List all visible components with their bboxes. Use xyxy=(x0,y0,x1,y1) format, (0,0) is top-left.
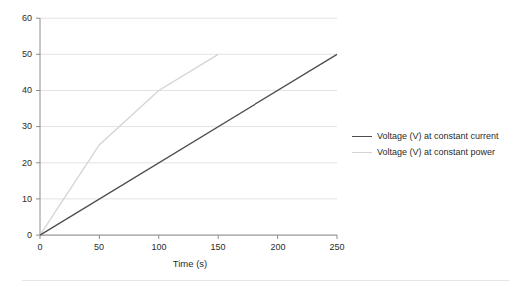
chart-legend: Voltage (V) at constant current Voltage … xyxy=(352,129,528,161)
y-tick-label-60: 60 xyxy=(8,13,32,23)
y-tick-label-10: 10 xyxy=(8,194,32,204)
y-tick-label-0: 0 xyxy=(8,230,32,240)
y-tick-label-50: 50 xyxy=(8,49,32,59)
x-tick-label-250: 250 xyxy=(322,242,352,252)
series-line-constant-current xyxy=(40,54,337,235)
x-tick-label-50: 50 xyxy=(84,242,114,252)
gridlines xyxy=(40,18,337,235)
legend-entry-constant-power[interactable]: Voltage (V) at constant power xyxy=(352,145,528,160)
x-tick-label-150: 150 xyxy=(203,242,233,252)
y-tick-label-20: 20 xyxy=(8,158,32,168)
y-tick-label-40: 40 xyxy=(8,85,32,95)
series-line-constant-power xyxy=(40,54,218,235)
legend-swatch-constant-current xyxy=(352,136,372,137)
legend-swatch-constant-power xyxy=(352,152,372,153)
legend-entry-constant-current[interactable]: Voltage (V) at constant current xyxy=(352,129,528,144)
x-tick-label-0: 0 xyxy=(25,242,55,252)
legend-label-constant-current: Voltage (V) at constant current xyxy=(377,131,499,142)
bottom-divider xyxy=(22,280,509,281)
x-tick-label-100: 100 xyxy=(144,242,174,252)
x-axis-title: Time (s) xyxy=(120,258,260,269)
legend-label-constant-power: Voltage (V) at constant power xyxy=(377,147,495,158)
chart-figure: 60 50 40 30 20 10 0 0 50 100 150 200 250… xyxy=(0,0,531,287)
x-axis-ticks xyxy=(40,235,337,239)
x-tick-label-200: 200 xyxy=(263,242,293,252)
y-tick-label-30: 30 xyxy=(8,121,32,131)
y-axis-ticks xyxy=(36,18,40,235)
